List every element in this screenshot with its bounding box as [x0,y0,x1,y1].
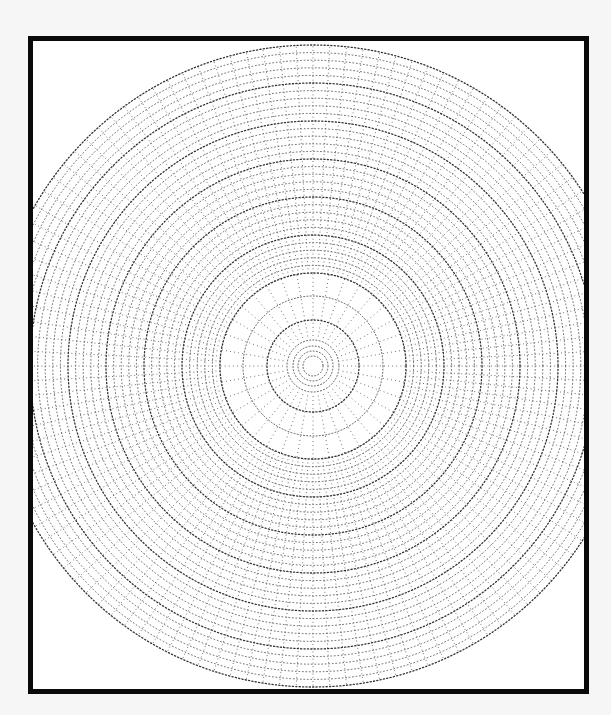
grid-radial [33,404,228,497]
inner-zone-background [220,273,406,459]
grid-radial [394,205,584,320]
grid-radial [124,441,259,626]
grid-radial [404,385,584,433]
grid-radial [394,413,584,528]
grid-radial [360,447,475,645]
grid-radial [337,456,396,677]
grid-radial [33,399,226,481]
grid-radial [213,454,284,672]
grid-radial [296,459,308,688]
page [0,0,611,715]
grid-radial [63,425,241,569]
grid-radial [230,456,289,677]
grid-radial [360,87,475,285]
polar-grid-diagram [33,41,584,689]
grid-frame [28,36,589,694]
grid-radial [33,235,228,328]
grid-radial [213,60,284,278]
grid-radial [382,151,552,304]
grid-radial [404,299,584,347]
grid-radial [33,283,223,342]
grid-radial [33,251,226,333]
grid-radial [403,390,584,449]
grid-radial [296,44,308,273]
